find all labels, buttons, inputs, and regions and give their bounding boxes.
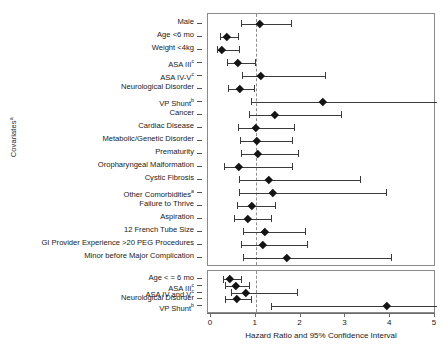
ci-upper-cap bbox=[238, 33, 239, 40]
x-axis-tick-label: 0 bbox=[208, 318, 212, 327]
row-label-text: VP Shunt bbox=[159, 99, 191, 108]
x-axis-tick-label: 2 bbox=[297, 318, 301, 327]
confidence-interval-bar bbox=[240, 141, 292, 142]
row-label: Neurological Disorder bbox=[121, 83, 194, 91]
row-label-text: Neurological Disorder bbox=[121, 82, 194, 91]
ci-lower-cap bbox=[249, 111, 250, 118]
point-estimate-marker bbox=[218, 46, 226, 54]
y-axis-tick bbox=[197, 114, 202, 115]
row-label: ASA IIIc bbox=[168, 57, 194, 69]
x-axis-title: Hazard Ratio and 95% Confidence Interval bbox=[207, 331, 435, 340]
ci-lower-cap bbox=[241, 150, 242, 157]
row-label: Metabolic/Genetic Disorder bbox=[102, 135, 194, 143]
ci-lower-cap bbox=[225, 296, 226, 303]
x-axis-tick-label: 1 bbox=[253, 318, 257, 327]
point-estimate-marker bbox=[269, 189, 277, 197]
confidence-interval-bar bbox=[241, 24, 290, 25]
row-label-text: 12 French Tube Size bbox=[124, 225, 194, 234]
row-label: VP Shuntb bbox=[159, 96, 194, 108]
ci-upper-cap bbox=[297, 289, 298, 296]
point-estimate-marker bbox=[235, 163, 243, 171]
ci-upper-cap bbox=[275, 202, 276, 209]
y-axis-tick bbox=[197, 244, 202, 245]
row-label: Prematurity bbox=[155, 148, 194, 156]
confidence-interval-bar bbox=[239, 180, 360, 181]
row-label: Cystic Fibrosis bbox=[145, 174, 194, 182]
ci-lower-cap bbox=[237, 202, 238, 209]
x-axis-tick-label: 5 bbox=[432, 318, 436, 327]
row-label-text: Failure to Thrive bbox=[139, 199, 194, 208]
ci-upper-cap bbox=[239, 46, 240, 53]
row-label-text: ASA III bbox=[168, 60, 191, 69]
x-axis-tick-label: 4 bbox=[387, 318, 391, 327]
ci-lower-cap bbox=[234, 215, 235, 222]
row-label-text: Cancer bbox=[170, 108, 194, 117]
row-label-text: VP Shunt bbox=[159, 303, 191, 312]
ci-lower-cap bbox=[225, 282, 226, 289]
row-label-text: Aspiration bbox=[160, 212, 194, 221]
x-axis-tick bbox=[434, 313, 435, 317]
x-axis-tick bbox=[255, 313, 256, 317]
confidence-interval-bar bbox=[243, 258, 391, 259]
ci-lower-cap bbox=[242, 72, 243, 79]
row-label-text: Other Comorbidities bbox=[124, 190, 192, 199]
y-axis-tick bbox=[197, 285, 202, 286]
ci-lower-cap bbox=[243, 228, 244, 235]
x-axis-tick bbox=[210, 313, 211, 317]
row-label: Other Comorbiditiesa bbox=[124, 187, 194, 199]
ci-upper-cap bbox=[292, 163, 293, 170]
y-axis-tick bbox=[197, 127, 202, 128]
ci-upper-cap bbox=[294, 124, 295, 131]
y-axis-tick bbox=[197, 192, 202, 193]
point-estimate-marker bbox=[383, 302, 391, 310]
confidence-interval-bar bbox=[242, 76, 325, 77]
row-label: Cardiac Disease bbox=[138, 122, 194, 130]
ci-lower-cap bbox=[224, 163, 225, 170]
row-label: Male bbox=[178, 18, 194, 26]
row-label-text: Oropharyngeal Malformation bbox=[98, 160, 194, 169]
ci-upper-cap bbox=[251, 296, 252, 303]
confidence-interval-bar bbox=[241, 245, 308, 246]
row-label: Aspiration bbox=[160, 213, 194, 221]
confidence-interval-bar bbox=[238, 128, 294, 129]
ci-upper-cap bbox=[292, 137, 293, 144]
point-estimate-marker bbox=[319, 98, 327, 106]
ci-lower-cap bbox=[239, 189, 240, 196]
point-estimate-marker bbox=[256, 20, 264, 28]
y-axis-tick bbox=[197, 101, 202, 102]
ci-upper-cap bbox=[360, 176, 361, 183]
confidence-interval-bar bbox=[234, 219, 271, 220]
y-axis-tick bbox=[197, 305, 202, 306]
row-label: 12 French Tube Size bbox=[124, 226, 194, 234]
row-label: ASA IV-Vc bbox=[160, 70, 194, 82]
ci-upper-cap bbox=[254, 85, 255, 92]
row-label-superscript: c bbox=[191, 58, 194, 64]
ci-lower-cap bbox=[243, 254, 244, 261]
confidence-interval-bar bbox=[241, 154, 298, 155]
point-estimate-marker bbox=[232, 282, 240, 290]
row-label-text: Weight <4kg bbox=[152, 43, 194, 52]
ci-lower-cap bbox=[223, 276, 224, 283]
row-label: Minor before Major Complication bbox=[84, 252, 194, 260]
ci-upper-cap bbox=[391, 254, 392, 261]
forest-plot: Covariatesa MaleAge <6 moWeight <4kgASA … bbox=[0, 0, 445, 346]
ci-upper-cap bbox=[341, 111, 342, 118]
ci-upper-cap bbox=[386, 189, 387, 196]
row-label-superscript: b bbox=[191, 302, 194, 308]
panel-bottom bbox=[207, 270, 435, 313]
ci-lower-cap bbox=[227, 59, 228, 66]
ci-upper-cap bbox=[307, 241, 308, 248]
ci-lower-cap bbox=[241, 20, 242, 27]
row-label: Cancer bbox=[170, 109, 194, 117]
y-axis-tick bbox=[197, 257, 202, 258]
ci-lower-cap bbox=[228, 85, 229, 92]
point-estimate-marker bbox=[253, 137, 261, 145]
row-label: Failure to Thrive bbox=[139, 200, 194, 208]
ci-upper-cap bbox=[249, 282, 250, 289]
point-estimate-marker bbox=[236, 85, 244, 93]
point-estimate-marker bbox=[226, 275, 234, 283]
point-estimate-marker bbox=[233, 295, 241, 303]
confidence-interval-bar bbox=[243, 232, 305, 233]
y-axis-tick bbox=[197, 292, 202, 293]
ci-upper-cap bbox=[298, 150, 299, 157]
